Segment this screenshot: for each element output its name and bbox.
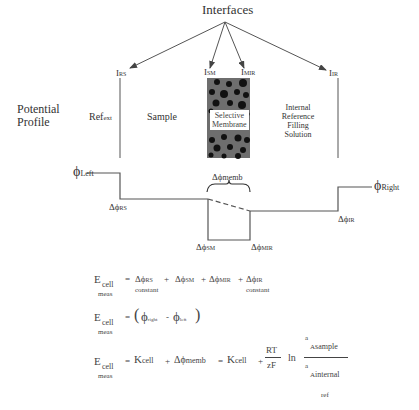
interface-rs-label: IRS (116, 68, 126, 78)
delta-phi-rs-label: ΔϕRS (109, 202, 127, 212)
delta-phi-memb-label: Δϕmemb (212, 172, 243, 182)
delta-phi-mir-label: ΔϕMIR (251, 242, 273, 252)
internal-reference-label: Internal Reference Filling Solution (276, 103, 320, 139)
membrane-label: Selective Membrane (210, 110, 249, 130)
delta-phi-ir-label: ΔϕIR (338, 214, 355, 224)
interface-sm-label: ISM (204, 67, 216, 77)
potential-profile-diagram (0, 0, 419, 410)
fraction-bar (265, 357, 281, 358)
sample-label: Sample (147, 111, 177, 122)
interface-mir-label: IMIR (241, 67, 255, 77)
interface-arrows (130, 22, 326, 70)
phi-left-label: ϕLeft (73, 164, 94, 180)
interfaces-title: Interfaces (202, 2, 253, 18)
phi-right-label: ϕRight (374, 178, 399, 194)
interface-ir-label: IIR (329, 68, 338, 78)
log-fraction-bar (304, 357, 348, 358)
ref-ext-label: Refext (89, 111, 112, 122)
potential-profile-label: Potential Profile (17, 103, 60, 129)
delta-phi-sm-label: ΔϕSM (196, 242, 215, 252)
